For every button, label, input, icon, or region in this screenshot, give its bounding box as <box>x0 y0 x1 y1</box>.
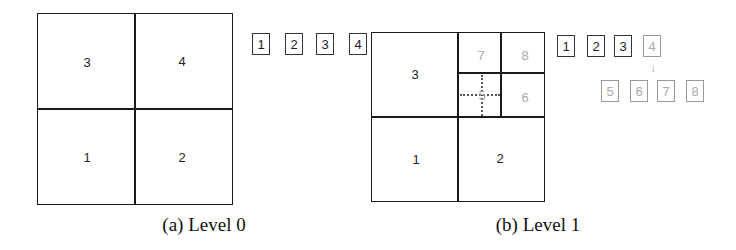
level1-list-item-4: 4 <box>643 35 661 57</box>
caption-level-1: (b) Level 1 <box>496 214 580 236</box>
level0-horizontal-divider <box>37 108 233 110</box>
level0-cell-4: 4 <box>178 54 185 69</box>
level1-cell-3: 3 <box>411 67 418 82</box>
level1-list-item-3: 3 <box>614 35 632 57</box>
level1-list-item-6: 6 <box>630 80 648 102</box>
level1-list-item-5: 5 <box>601 80 619 102</box>
level1-list-item-2: 2 <box>587 35 605 57</box>
level0-list-item-3: 3 <box>316 33 334 55</box>
level0-cell-2: 2 <box>178 150 185 165</box>
level0-list-item-2: 2 <box>285 33 303 55</box>
level1-cell-2: 2 <box>496 151 503 166</box>
level1-cell-5: 5 <box>478 88 485 103</box>
level0-cell-1: 1 <box>83 150 90 165</box>
level1-cell-6: 6 <box>521 90 528 105</box>
caption-level-0: (a) Level 0 <box>162 214 245 236</box>
down-arrow-icon: ↓ <box>650 61 656 75</box>
level1-sub-horizontal-divider <box>457 72 545 74</box>
level1-list-item-7: 7 <box>657 80 675 102</box>
level1-cell-7: 7 <box>477 48 484 63</box>
level1-cell-8: 8 <box>521 48 528 63</box>
level0-list-item-1: 1 <box>252 33 270 55</box>
level1-cell-1: 1 <box>412 152 419 167</box>
level0-list-item-4: 4 <box>349 33 367 55</box>
level1-sub-vertical-divider <box>500 32 502 117</box>
level1-list-item-8: 8 <box>686 80 704 102</box>
level1-horizontal-divider <box>371 116 545 118</box>
level1-list-item-1: 1 <box>557 35 575 57</box>
level0-cell-3: 3 <box>83 55 90 70</box>
